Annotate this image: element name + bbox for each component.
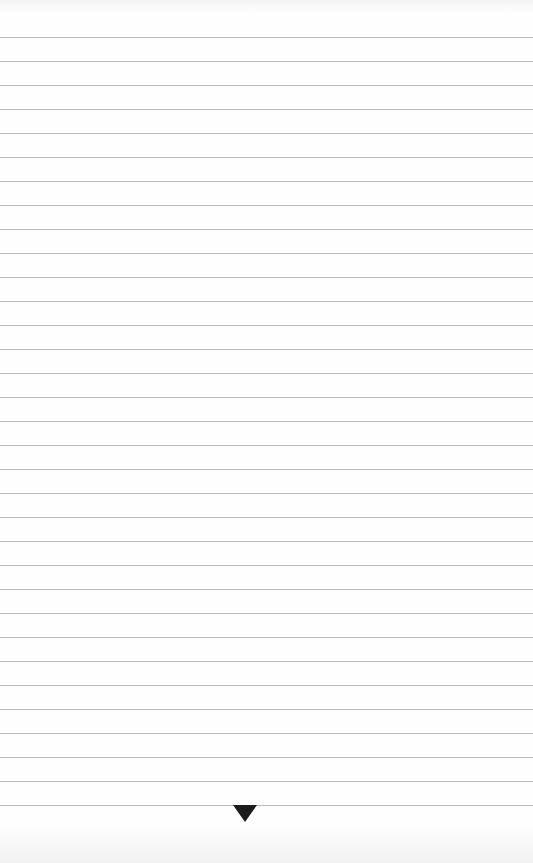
rule-line bbox=[0, 589, 533, 590]
rule-line bbox=[0, 757, 533, 758]
rule-line bbox=[0, 517, 533, 518]
rule-line bbox=[0, 781, 533, 782]
ruled-paper bbox=[0, 0, 533, 863]
rule-line bbox=[0, 61, 533, 62]
rule-line bbox=[0, 565, 533, 566]
rule-line bbox=[0, 613, 533, 614]
rule-line bbox=[0, 109, 533, 110]
rule-line bbox=[0, 805, 533, 806]
rule-line bbox=[0, 157, 533, 158]
rule-line bbox=[0, 181, 533, 182]
rule-line bbox=[0, 37, 533, 38]
rule-line bbox=[0, 493, 533, 494]
rule-line bbox=[0, 709, 533, 710]
rule-line bbox=[0, 133, 533, 134]
rule-line bbox=[0, 421, 533, 422]
rule-line bbox=[0, 661, 533, 662]
rule-line bbox=[0, 637, 533, 638]
rule-line bbox=[0, 373, 533, 374]
rule-line bbox=[0, 253, 533, 254]
rule-line bbox=[0, 349, 533, 350]
rule-line bbox=[0, 85, 533, 86]
triangle-ornament-icon bbox=[233, 805, 257, 822]
bottom-edge-shade bbox=[0, 823, 533, 863]
rule-line bbox=[0, 445, 533, 446]
rule-line bbox=[0, 541, 533, 542]
rule-line bbox=[0, 301, 533, 302]
rule-line bbox=[0, 325, 533, 326]
rule-line bbox=[0, 397, 533, 398]
rule-line bbox=[0, 229, 533, 230]
rule-line bbox=[0, 205, 533, 206]
top-edge-shade bbox=[0, 0, 533, 14]
rule-line bbox=[0, 469, 533, 470]
rule-line bbox=[0, 685, 533, 686]
rule-line bbox=[0, 733, 533, 734]
rule-line bbox=[0, 277, 533, 278]
